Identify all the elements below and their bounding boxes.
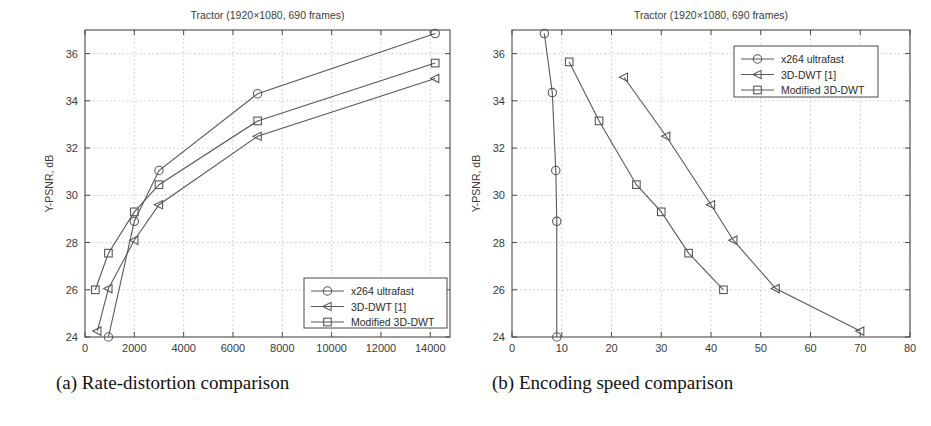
- figure-container: Tractor (1920×1080, 690 frames)020004000…: [0, 0, 931, 426]
- legend-label: 3D-DWT [1]: [351, 301, 406, 313]
- legend-label: Modified 3D-DWT: [781, 84, 865, 96]
- x-tick-label: 0: [82, 342, 88, 354]
- chart-legend: x264 ultrafast3D-DWT [1]Modified 3D-DWT: [734, 46, 878, 97]
- y-tick-label: 26: [66, 284, 78, 296]
- chart-legend: x264 ultrafast3D-DWT [1]Modified 3D-DWT: [304, 278, 447, 328]
- x-tick-label: 20: [605, 342, 617, 354]
- y-tick-label: 36: [66, 48, 78, 60]
- data-point: [93, 327, 101, 335]
- x-tick-label: 6000: [221, 342, 245, 354]
- caption-encoding-speed: (b) Encoding speed comparison: [492, 372, 733, 394]
- y-tick-label: 24: [66, 331, 78, 343]
- y-tick-label: 30: [66, 189, 78, 201]
- x-tick-label: 12000: [366, 342, 397, 354]
- x-tick-label: 60: [804, 342, 816, 354]
- series-3: [565, 58, 727, 293]
- x-tick-label: 8000: [270, 342, 294, 354]
- caption-rate-distortion: (a) Rate-distortion comparison: [56, 372, 289, 394]
- series-path: [624, 77, 860, 331]
- y-tick-label: 28: [493, 237, 505, 249]
- series-1: [540, 29, 561, 341]
- x-tick-label: 70: [854, 342, 866, 354]
- encoding-speed-chart: Tractor (1920×1080, 690 frames)010203040…: [460, 0, 931, 360]
- x-tick-label: 50: [755, 342, 767, 354]
- x-tick-label: 30: [655, 342, 667, 354]
- y-tick-label: 24: [493, 331, 505, 343]
- legend-label: x264 ultrafast: [351, 285, 414, 297]
- y-tick-label: 34: [66, 95, 78, 107]
- rate-distortion-chart: Tractor (1920×1080, 690 frames)020004000…: [0, 0, 470, 360]
- chart-title: Tractor (1920×1080, 690 frames): [191, 9, 345, 21]
- y-tick-label: 30: [493, 189, 505, 201]
- y-tick-label: 32: [493, 142, 505, 154]
- chart-panel-rate-distortion: Tractor (1920×1080, 690 frames)020004000…: [0, 0, 470, 360]
- x-tick-label: 4000: [171, 342, 195, 354]
- series-2: [619, 73, 864, 335]
- x-tick-label: 14000: [415, 342, 446, 354]
- legend-label: Modified 3D-DWT: [351, 316, 435, 328]
- x-tick-label: 10: [556, 342, 568, 354]
- x-tick-label: 0: [509, 342, 515, 354]
- chart-title: Tractor (1920×1080, 690 frames): [634, 9, 788, 21]
- x-tick-label: 40: [705, 342, 717, 354]
- series-path: [95, 63, 435, 290]
- x-tick-label: 2000: [122, 342, 146, 354]
- series-path: [569, 62, 723, 290]
- y-axis-label: Y-PSNR, dB: [43, 155, 55, 212]
- y-tick-label: 28: [66, 237, 78, 249]
- legend-label: x264 ultrafast: [781, 53, 844, 65]
- y-tick-label: 32: [66, 142, 78, 154]
- x-tick-label: 10000: [316, 342, 347, 354]
- chart-panel-encoding-speed: Tractor (1920×1080, 690 frames)010203040…: [460, 0, 931, 360]
- y-tick-label: 36: [493, 48, 505, 60]
- y-tick-label: 34: [493, 95, 505, 107]
- y-axis-label: Y-PSNR, dB: [470, 155, 482, 212]
- series-path: [544, 34, 556, 337]
- y-tick-label: 26: [493, 284, 505, 296]
- legend-label: 3D-DWT [1]: [781, 69, 836, 81]
- x-tick-label: 80: [904, 342, 916, 354]
